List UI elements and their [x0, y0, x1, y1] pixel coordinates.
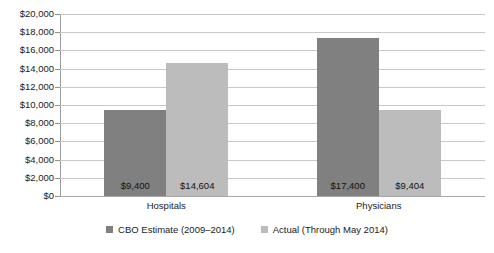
- bar-value-label: $9,404: [379, 180, 441, 191]
- plot-area: $9,400$14,604$17,400$9,404: [60, 14, 485, 196]
- bar-chart: $20,000$18,000$16,000$14,000$12,000$10,0…: [0, 0, 494, 253]
- y-axis-tick-label: $6,000: [0, 136, 54, 146]
- y-axis-tick-label: $4,000: [0, 155, 54, 165]
- legend-item-series-0: CBO Estimate (2009–2014): [106, 224, 235, 235]
- x-axis-category-label: Physicians: [273, 200, 486, 212]
- legend-item-series-1: Actual (Through May 2014): [261, 224, 388, 235]
- gridline: [60, 105, 485, 106]
- legend-swatch-icon: [261, 226, 268, 233]
- bar-physicians-series-0: $17,400: [317, 38, 379, 196]
- bar-value-label: $9,400: [104, 180, 166, 191]
- y-axis-tick-label: $10,000: [0, 100, 54, 110]
- chart-legend: CBO Estimate (2009–2014)Actual (Through …: [0, 224, 494, 235]
- y-axis-tick-label: $18,000: [0, 27, 54, 37]
- legend-swatch-icon: [106, 226, 113, 233]
- legend-label: Actual (Through May 2014): [273, 224, 388, 235]
- bar-physicians-series-1: $9,404: [379, 110, 441, 196]
- legend-label: CBO Estimate (2009–2014): [118, 224, 235, 235]
- gridline: [60, 32, 485, 33]
- bar-value-label: $14,604: [166, 180, 228, 191]
- y-axis-tick-label: $0: [0, 191, 54, 201]
- y-axis-tick-label: $8,000: [0, 118, 54, 128]
- gridline: [60, 69, 485, 70]
- x-axis-category-label: Hospitals: [60, 200, 273, 212]
- bar-hospitals-series-0: $9,400: [104, 110, 166, 196]
- y-axis-tick-label: $2,000: [0, 173, 54, 183]
- y-axis-tick-label: $16,000: [0, 45, 54, 55]
- gridline: [60, 87, 485, 88]
- y-axis-tick-label: $20,000: [0, 9, 54, 19]
- y-axis-tick-label: $14,000: [0, 64, 54, 74]
- y-axis-tick-label: $12,000: [0, 82, 54, 92]
- x-axis-category-labels: HospitalsPhysicians: [60, 200, 485, 216]
- bar-value-label: $17,400: [317, 180, 379, 191]
- bar-hospitals-series-1: $14,604: [166, 63, 228, 196]
- y-axis-labels: $20,000$18,000$16,000$14,000$12,000$10,0…: [0, 0, 54, 253]
- gridline: [60, 14, 485, 15]
- gridline: [60, 196, 485, 197]
- gridline: [60, 50, 485, 51]
